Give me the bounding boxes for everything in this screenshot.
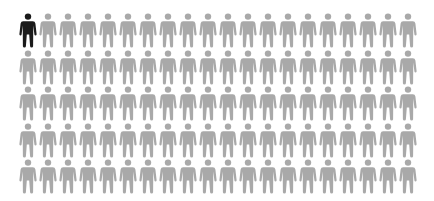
person-icon	[178, 86, 198, 122]
person-icon	[78, 13, 98, 49]
person-icon	[178, 159, 198, 195]
person-icon	[378, 123, 398, 159]
person-icon	[18, 50, 38, 86]
person-icon	[98, 50, 118, 86]
person-icon	[198, 13, 218, 49]
person-icon	[398, 159, 418, 195]
person-icon	[158, 159, 178, 195]
person-icon	[18, 86, 38, 122]
person-icon	[58, 50, 78, 86]
person-icon	[398, 86, 418, 122]
person-icon	[138, 86, 158, 122]
person-icon	[138, 50, 158, 86]
person-icon	[298, 159, 318, 195]
person-icon	[198, 86, 218, 122]
person-icon	[358, 159, 378, 195]
person-icon	[338, 123, 358, 159]
person-icon	[78, 50, 98, 86]
person-icon	[298, 86, 318, 122]
person-icon	[198, 159, 218, 195]
person-icon	[218, 159, 238, 195]
person-icon	[18, 123, 38, 159]
person-icon	[278, 159, 298, 195]
person-icon	[218, 86, 238, 122]
person-icon	[318, 13, 338, 49]
person-icon	[398, 123, 418, 159]
person-icon	[398, 13, 418, 49]
person-icon	[238, 13, 258, 49]
person-icon	[118, 13, 138, 49]
person-icon-highlighted	[18, 13, 38, 49]
person-icon	[118, 50, 138, 86]
person-icon	[238, 123, 258, 159]
person-icon	[298, 50, 318, 86]
person-icon	[258, 50, 278, 86]
person-icon	[38, 13, 58, 49]
person-icon	[378, 159, 398, 195]
person-icon	[338, 159, 358, 195]
person-icon	[258, 13, 278, 49]
person-icon	[78, 123, 98, 159]
person-icon	[98, 159, 118, 195]
person-icon	[218, 50, 238, 86]
person-icon	[318, 123, 338, 159]
person-icon	[98, 13, 118, 49]
person-icon	[118, 123, 138, 159]
person-icon	[158, 123, 178, 159]
person-icon	[238, 86, 258, 122]
person-icon	[58, 86, 78, 122]
person-icon	[378, 50, 398, 86]
person-icon	[358, 123, 378, 159]
person-icon	[378, 13, 398, 49]
person-icon	[118, 159, 138, 195]
person-icon	[338, 86, 358, 122]
person-icon	[278, 13, 298, 49]
person-icon	[318, 50, 338, 86]
person-icon	[118, 86, 138, 122]
person-icon	[98, 123, 118, 159]
person-icon	[198, 123, 218, 159]
person-icon	[338, 50, 358, 86]
person-icon	[58, 159, 78, 195]
person-icon	[358, 13, 378, 49]
person-icon	[158, 86, 178, 122]
person-icon	[238, 159, 258, 195]
person-icon	[338, 13, 358, 49]
person-icon	[318, 86, 338, 122]
person-icon	[258, 123, 278, 159]
person-icon	[78, 159, 98, 195]
person-icon	[158, 13, 178, 49]
person-icon	[298, 13, 318, 49]
person-icon	[298, 123, 318, 159]
person-icon	[98, 86, 118, 122]
person-icon	[178, 123, 198, 159]
person-icon	[138, 123, 158, 159]
person-icon	[78, 86, 98, 122]
person-icon	[218, 13, 238, 49]
person-icon	[38, 159, 58, 195]
person-icon	[358, 86, 378, 122]
person-icon	[138, 159, 158, 195]
person-icon	[238, 50, 258, 86]
person-icon	[358, 50, 378, 86]
person-icon	[278, 86, 298, 122]
person-icon	[398, 50, 418, 86]
person-icon	[258, 86, 278, 122]
person-icon	[198, 50, 218, 86]
pictogram-grid	[18, 13, 418, 196]
person-icon	[318, 159, 338, 195]
person-icon	[38, 123, 58, 159]
person-icon	[278, 50, 298, 86]
person-icon	[258, 159, 278, 195]
person-icon	[38, 86, 58, 122]
person-icon	[58, 13, 78, 49]
person-icon	[138, 13, 158, 49]
person-icon	[158, 50, 178, 86]
person-icon	[38, 50, 58, 86]
person-icon	[218, 123, 238, 159]
person-icon	[278, 123, 298, 159]
person-icon	[58, 123, 78, 159]
person-icon	[378, 86, 398, 122]
person-icon	[18, 159, 38, 195]
person-icon	[178, 13, 198, 49]
